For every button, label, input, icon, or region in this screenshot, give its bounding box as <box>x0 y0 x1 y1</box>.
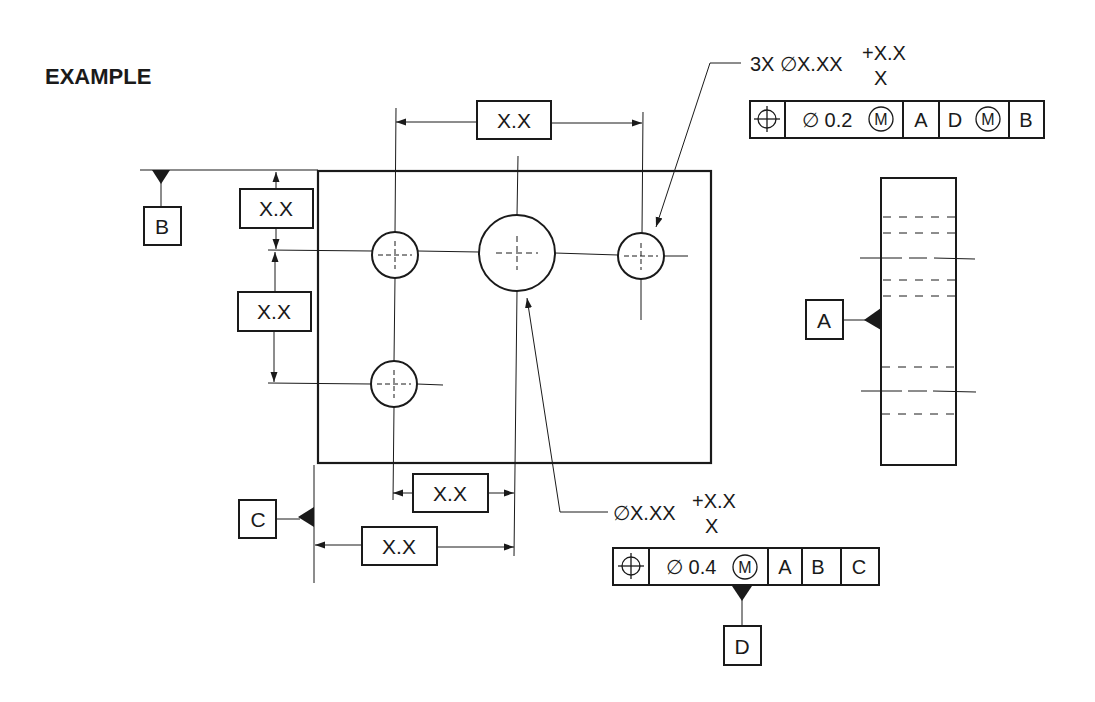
svg-text:D: D <box>948 109 962 131</box>
svg-text:3X ∅X.XX: 3X ∅X.XX <box>750 53 843 75</box>
svg-text:A: A <box>778 556 792 578</box>
datum-c-symbol: C <box>239 500 314 538</box>
drawing-canvas: EXAMPLE <box>0 0 1095 702</box>
svg-text:X.X: X.X <box>259 197 293 220</box>
svg-text:B: B <box>811 556 824 578</box>
feature-control-frame-3x: ∅ 0.2 M A D M B <box>750 101 1044 138</box>
leader-large-hole <box>527 298 608 512</box>
svg-text:D: D <box>734 635 749 658</box>
svg-text:X.X: X.X <box>433 482 467 505</box>
dimension-bottom-upper-horizontal: X.X <box>393 474 514 512</box>
svg-text:∅ 0.2: ∅ 0.2 <box>802 109 852 131</box>
svg-text:B: B <box>155 215 169 238</box>
svg-text:A: A <box>914 109 928 131</box>
svg-text:∅X.XX: ∅X.XX <box>613 502 676 524</box>
dimension-left-lower-vertical: X.X <box>238 252 311 382</box>
svg-text:A: A <box>817 309 831 332</box>
svg-text:X.X: X.X <box>257 300 291 323</box>
svg-text:X: X <box>705 515 718 537</box>
dimension-left-upper-vertical: X.X <box>240 172 313 249</box>
datum-a-symbol: A <box>806 300 881 339</box>
svg-text:X.X: X.X <box>382 535 416 558</box>
feature-control-frame-large: ∅ 0.4 M A B C <box>613 548 879 585</box>
svg-text:C: C <box>852 556 866 578</box>
title: EXAMPLE <box>45 64 151 89</box>
svg-text:∅ 0.4: ∅ 0.4 <box>666 556 716 578</box>
dimension-top-horizontal: X.X <box>396 101 642 139</box>
datum-b-symbol: B <box>144 170 181 245</box>
dimension-bottom-lower-horizontal: X.X <box>315 527 514 565</box>
svg-text:M: M <box>874 111 887 128</box>
svg-text:X.X: X.X <box>497 109 531 132</box>
svg-text:+X.X: +X.X <box>692 490 736 512</box>
leader-3x-holes <box>656 63 741 227</box>
svg-text:M: M <box>738 559 751 576</box>
svg-text:B: B <box>1019 109 1032 131</box>
svg-text:X: X <box>874 67 887 89</box>
datum-d-symbol: D <box>724 586 761 665</box>
svg-text:C: C <box>250 508 265 531</box>
hole-note-large: ∅X.XX +X.X X <box>613 490 736 537</box>
svg-text:+X.X: +X.X <box>862 42 906 64</box>
hole-note-3x: 3X ∅X.XX +X.X X <box>750 42 906 89</box>
svg-text:M: M <box>981 111 994 128</box>
